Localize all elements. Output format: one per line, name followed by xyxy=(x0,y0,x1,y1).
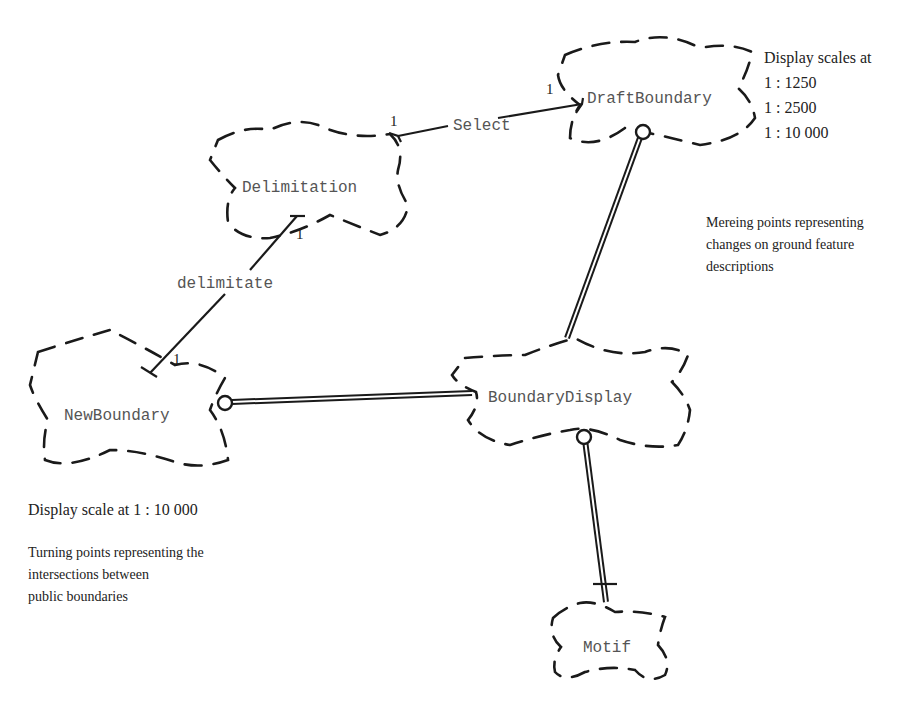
node-boundary-display[interactable]: BoundaryDisplay xyxy=(452,338,690,447)
node-motif[interactable]: Motif xyxy=(552,602,668,679)
node-delimitation[interactable]: Delimitation xyxy=(210,122,408,238)
double-line-inner xyxy=(585,440,606,602)
aggregation-circle-icon xyxy=(577,430,591,444)
composition-draft-to-display[interactable] xyxy=(567,125,650,338)
note-turning: Turning points representing the intersec… xyxy=(28,545,204,604)
node-label: NewBoundary xyxy=(64,407,170,425)
note-line: changes on ground feature xyxy=(706,237,854,252)
association-line xyxy=(250,216,297,270)
multiplicity-label: 1 xyxy=(390,113,398,129)
composition-display-to-motif[interactable] xyxy=(577,430,617,602)
note-draft-scales: Display scales at 1 : 1250 1 : 2500 1 : … xyxy=(764,49,872,141)
note-text: Display scale at 1 : 10 000 xyxy=(28,501,198,519)
note-line: Mereing points representing xyxy=(706,215,864,230)
aggregation-circle-icon xyxy=(636,125,650,139)
node-draft-boundary[interactable]: DraftBoundary xyxy=(558,37,755,145)
association-line xyxy=(150,294,225,373)
association-line xyxy=(398,126,448,136)
node-label: BoundaryDisplay xyxy=(488,389,632,407)
double-line-inner xyxy=(232,393,472,402)
note-line: intersections between xyxy=(28,567,149,582)
node-label: Delimitation xyxy=(242,179,357,197)
node-label: Motif xyxy=(583,639,631,657)
cloud-outline xyxy=(30,330,228,466)
note-mereing: Mereing points representing changes on g… xyxy=(706,215,864,274)
note-line: public boundaries xyxy=(28,589,128,604)
node-new-boundary[interactable]: NewBoundary xyxy=(30,330,228,466)
multiplicity-label: 1 xyxy=(546,81,554,97)
note-line: Turning points representing the xyxy=(28,545,204,560)
composition-new-to-display[interactable] xyxy=(218,393,472,410)
association-delimitate[interactable]: delimitate 1 1 xyxy=(141,216,305,377)
association-line xyxy=(498,104,582,118)
association-select[interactable]: Select 1 1 xyxy=(389,81,583,142)
aggregation-circle-icon xyxy=(218,396,232,410)
diagram-canvas: DraftBoundary Delimitation NewBoundary B… xyxy=(0,0,922,707)
multiplicity-label: 1 xyxy=(173,351,181,367)
double-line-inner xyxy=(567,135,641,338)
association-label: delimitate xyxy=(177,275,273,293)
note-line: 1 : 2500 xyxy=(764,99,816,116)
note-line: 1 : 1250 xyxy=(764,74,816,91)
note-new-scale: Display scale at 1 : 10 000 xyxy=(28,501,198,519)
note-title: Display scales at xyxy=(764,49,872,67)
multiplicity-label: 1 xyxy=(296,226,304,242)
association-label: Select xyxy=(453,117,511,135)
note-line: 1 : 10 000 xyxy=(764,124,828,141)
note-line: descriptions xyxy=(706,259,774,274)
node-label: DraftBoundary xyxy=(587,90,712,108)
